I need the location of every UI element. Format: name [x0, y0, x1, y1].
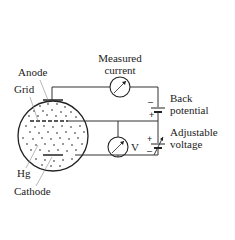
anode-lead [52, 87, 110, 100]
cathode-leader [36, 157, 52, 186]
back-potential-label-1: Back [170, 92, 193, 104]
anode-leader [40, 80, 48, 100]
measured-current-label-1: Measured [98, 52, 142, 64]
voltmeter [108, 137, 128, 157]
anode-label: Anode [18, 66, 47, 78]
back-potential-minus: – [148, 97, 153, 107]
cathode-label: Cathode [14, 185, 51, 197]
adjustable-minus: – [147, 146, 152, 156]
measured-current-label-2: current [104, 64, 135, 76]
adjustable-voltage-label-2: voltage [170, 138, 202, 150]
franck-hertz-diagram: Anode Grid Hg Cathode Measured current B… [0, 0, 235, 240]
adjustable-plus: + [147, 134, 152, 144]
ammeter [110, 77, 130, 97]
grid-label: Grid [14, 83, 35, 95]
hg-label: Hg [17, 167, 31, 179]
back-potential-label-2: potential [170, 104, 209, 116]
adjustable-voltage-label-1: Adjustable [170, 126, 218, 138]
mercury-tube [18, 101, 88, 171]
voltmeter-label: V [131, 141, 139, 153]
top-wire [130, 87, 158, 107]
back-potential-plus: + [149, 110, 154, 120]
